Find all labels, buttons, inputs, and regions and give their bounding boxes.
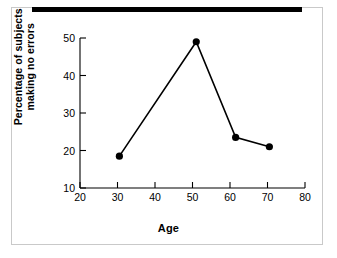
xtick-label-80: 80	[290, 192, 320, 203]
data-series-line	[119, 42, 269, 156]
ytick-label-50: 50	[53, 33, 75, 44]
y-axis-label-line-2: making no errors	[25, 0, 37, 152]
ytick-label-20: 20	[53, 146, 75, 157]
xtick-label-70: 70	[253, 192, 283, 203]
y-axis-label-line-1: Percentage of subjects	[13, 0, 25, 152]
xtick-label-60: 60	[215, 192, 245, 203]
xtick-label-50: 50	[178, 192, 208, 203]
ytick-label-40: 40	[53, 71, 75, 82]
x-axis	[80, 182, 305, 188]
y-axis-label: Percentage of subjects making no errors	[13, 0, 37, 152]
x-axis-label: Age	[0, 222, 337, 234]
y-axis	[80, 38, 86, 188]
xtick-label-20: 20	[65, 192, 95, 203]
plot-area	[0, 0, 337, 258]
xtick-label-40: 40	[140, 192, 170, 203]
ytick-label-30: 30	[53, 108, 75, 119]
xtick-label-30: 30	[103, 192, 133, 203]
figure-canvas: 50 40 30 20 10 20 30 40 50 60 70 80 Age …	[0, 0, 337, 258]
